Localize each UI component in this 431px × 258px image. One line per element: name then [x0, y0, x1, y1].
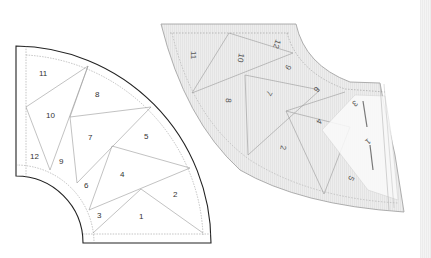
- section-label-9: 9: [59, 157, 64, 166]
- right-section-label: 11: [189, 51, 198, 60]
- section-label-4: 4: [120, 170, 125, 179]
- section-label-10: 10: [46, 111, 55, 120]
- section-label-12: 12: [30, 152, 39, 161]
- section-label-8: 8: [95, 90, 100, 99]
- section-label-3: 3: [97, 211, 102, 220]
- section-label-5: 5: [144, 132, 149, 141]
- section-label-7: 7: [88, 133, 93, 142]
- section-label-6: 6: [84, 181, 89, 190]
- section-label-1: 1: [139, 212, 144, 221]
- section-label-2: 2: [173, 190, 178, 199]
- section-label-11: 11: [39, 69, 48, 78]
- quilt-pattern-diagram: 11 10 12 9 8 7 6 4 2 3 5 1: [0, 0, 431, 258]
